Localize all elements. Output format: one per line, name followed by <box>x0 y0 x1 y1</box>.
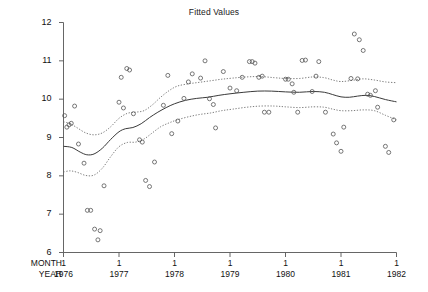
x-tick-year-label: 1980 <box>266 269 306 279</box>
data-point <box>286 77 290 81</box>
x-tick-month-label: 1 <box>155 258 195 268</box>
x-tick-month-label: 1 <box>321 258 361 268</box>
data-point <box>352 32 356 36</box>
data-point <box>383 144 387 148</box>
y-tick-label: 6 <box>26 247 52 257</box>
data-point <box>235 89 239 93</box>
data-point <box>166 73 170 77</box>
data-point <box>121 106 125 110</box>
x-tick-year-label: 1978 <box>155 269 195 279</box>
data-point <box>190 72 194 76</box>
data-point <box>373 89 377 93</box>
data-point <box>102 184 106 188</box>
data-point <box>228 86 232 90</box>
data-point <box>267 110 271 114</box>
data-point <box>349 76 353 80</box>
data-point <box>323 110 327 114</box>
data-point <box>376 105 380 109</box>
plot-area <box>0 0 428 292</box>
data-point <box>140 140 144 144</box>
x-tick-year-label: 1977 <box>99 269 139 279</box>
y-tick-label: 12 <box>26 17 52 27</box>
data-point <box>262 110 266 114</box>
x-tick-month-label: 1 <box>377 258 417 268</box>
data-point <box>119 75 123 79</box>
data-point <box>117 100 121 104</box>
data-point <box>144 178 148 182</box>
y-tick-label: 7 <box>26 208 52 218</box>
data-point <box>161 103 165 107</box>
confidence-band-lines <box>64 77 397 176</box>
fitted-line <box>64 91 397 155</box>
y-tick-label: 11 <box>26 55 52 65</box>
data-point <box>148 185 152 189</box>
data-point <box>342 125 346 129</box>
x-tick-year-label: 1979 <box>210 269 250 279</box>
axis-row-label-month: MONTH <box>14 258 62 268</box>
axis-row-label-year: YEAR <box>14 269 62 279</box>
data-point <box>153 160 157 164</box>
data-point <box>387 150 391 154</box>
series-lower-band <box>64 106 397 176</box>
data-point <box>186 80 190 84</box>
data-point <box>361 48 365 52</box>
data-point <box>214 126 218 130</box>
x-tick-year-label: 1982 <box>377 269 417 279</box>
data-point <box>314 74 318 78</box>
data-point <box>203 59 207 63</box>
y-tick-label: 8 <box>26 170 52 180</box>
data-point <box>73 104 77 108</box>
data-point <box>290 82 294 86</box>
data-point <box>182 96 186 100</box>
data-point <box>339 149 343 153</box>
x-tick-month-label: 1 <box>266 258 306 268</box>
x-tick-month-label: 1 <box>99 258 139 268</box>
data-point <box>317 60 321 64</box>
series-upper-band <box>64 77 397 135</box>
y-tick-label: 9 <box>26 132 52 142</box>
data-point <box>131 112 135 116</box>
series-fitted-center <box>64 91 397 155</box>
chart-container: Fitted Values 6789101112 119761197711978… <box>0 0 428 292</box>
data-point <box>296 110 300 114</box>
data-point <box>93 227 97 231</box>
data-point <box>199 76 203 80</box>
data-point <box>331 132 335 136</box>
data-point <box>211 103 215 107</box>
axes <box>59 23 397 258</box>
data-point <box>221 70 225 74</box>
data-point <box>96 238 100 242</box>
data-point <box>357 38 361 42</box>
data-point <box>76 142 80 146</box>
data-point <box>176 119 180 123</box>
data-point <box>170 132 174 136</box>
data-point <box>356 77 360 81</box>
x-tick-month-label: 1 <box>210 258 250 268</box>
y-tick-label: 10 <box>26 93 52 103</box>
data-point <box>98 229 102 233</box>
x-tick-year-label: 1981 <box>321 269 361 279</box>
data-point <box>82 161 86 165</box>
data-point <box>335 141 339 145</box>
